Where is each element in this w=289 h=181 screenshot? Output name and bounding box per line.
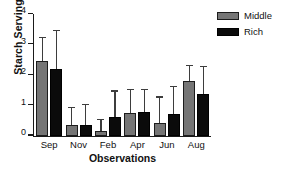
bar-middle-apr bbox=[124, 113, 136, 136]
error-bar-cap bbox=[156, 96, 163, 97]
bar-group bbox=[182, 14, 211, 136]
error-bar-cap bbox=[97, 119, 104, 120]
error-bar-cap bbox=[53, 30, 60, 31]
bar-group bbox=[34, 14, 63, 136]
bar-chart-figure: Starch Servings 01234 SepNovFebAprJunAug… bbox=[0, 0, 289, 181]
error-bar-line bbox=[189, 66, 190, 81]
bar-rich-sep bbox=[50, 69, 62, 135]
bar-rich-aug bbox=[197, 94, 209, 136]
error-bar-cap bbox=[141, 89, 148, 90]
x-axis-line bbox=[33, 136, 211, 137]
y-axis-tick-label: 1 bbox=[21, 98, 26, 107]
error-bar-line bbox=[159, 98, 160, 123]
bar-slot bbox=[95, 14, 107, 136]
x-axis-tick-label: Apr bbox=[123, 139, 152, 150]
legend-item-rich: Rich bbox=[217, 27, 272, 37]
legend-swatch-middle-icon bbox=[217, 12, 239, 20]
y-axis-tick: 1 bbox=[28, 104, 33, 105]
error-bar-line bbox=[100, 120, 101, 131]
error-bar-cap bbox=[127, 89, 134, 90]
x-axis-tick-label: Feb bbox=[93, 139, 122, 150]
x-axis-tick-label: Aug bbox=[182, 139, 211, 150]
bar-groups bbox=[34, 14, 211, 136]
error-bar-cap bbox=[170, 86, 177, 87]
x-axis-tick-label: Sep bbox=[34, 139, 63, 150]
bar-slot bbox=[197, 14, 209, 136]
x-axis-tick-labels: SepNovFebAprJunAug bbox=[34, 139, 211, 150]
error-bar-line bbox=[130, 90, 131, 113]
y-axis-tick: 0 bbox=[28, 134, 33, 135]
error-bar-line bbox=[173, 87, 174, 114]
y-axis-tick: 2 bbox=[28, 74, 33, 75]
y-axis-tick: 4 bbox=[28, 13, 33, 14]
error-bar-line bbox=[144, 90, 145, 112]
x-axis-tick-label: Jun bbox=[152, 139, 181, 150]
error-bar-line bbox=[56, 31, 57, 70]
error-bar-line bbox=[71, 108, 72, 125]
legend-label-middle: Middle bbox=[244, 11, 272, 21]
x-axis-title: Observations bbox=[34, 152, 211, 164]
bar-group bbox=[123, 14, 152, 136]
bar-rich-nov bbox=[80, 125, 92, 135]
error-bar-line bbox=[203, 67, 204, 94]
bar-slot bbox=[183, 14, 195, 136]
error-bar-cap bbox=[39, 37, 46, 38]
bar-rich-apr bbox=[138, 112, 150, 135]
bar-slot bbox=[80, 14, 92, 136]
chart-legend: Middle Rich bbox=[217, 11, 272, 43]
bar-slot bbox=[66, 14, 78, 136]
bar-middle-sep bbox=[36, 61, 48, 135]
error-bar-cap bbox=[186, 65, 193, 66]
bar-slot bbox=[168, 14, 180, 136]
error-bar-cap bbox=[68, 107, 75, 108]
bar-middle-nov bbox=[66, 125, 78, 136]
bar-middle-jun bbox=[154, 123, 166, 136]
y-axis-tick-label: 0 bbox=[21, 128, 26, 137]
bar-slot bbox=[124, 14, 136, 136]
error-bar-cap bbox=[111, 90, 118, 91]
error-bar-cap bbox=[200, 66, 207, 67]
error-bar-line bbox=[42, 38, 43, 61]
legend-label-rich: Rich bbox=[244, 27, 263, 37]
plot-area: 01234 bbox=[33, 14, 211, 137]
legend-item-middle: Middle bbox=[217, 11, 272, 21]
bar-rich-feb bbox=[109, 117, 121, 135]
error-bar-line bbox=[85, 105, 86, 125]
error-bar-line bbox=[114, 92, 115, 118]
bar-slot bbox=[50, 14, 62, 136]
bar-slot bbox=[138, 14, 150, 136]
bar-group bbox=[64, 14, 93, 136]
error-bar-cap bbox=[82, 104, 89, 105]
bar-slot bbox=[109, 14, 121, 136]
bar-group bbox=[152, 14, 181, 136]
y-axis-tick-label: 4 bbox=[21, 6, 26, 15]
bar-rich-jun bbox=[168, 114, 180, 135]
legend-swatch-rich-icon bbox=[217, 28, 239, 36]
y-axis-tick: 3 bbox=[28, 43, 33, 44]
bar-slot bbox=[154, 14, 166, 136]
x-axis-tick-label: Nov bbox=[64, 139, 93, 150]
bar-middle-aug bbox=[183, 81, 195, 136]
bar-group bbox=[93, 14, 122, 136]
y-axis-tick-label: 2 bbox=[21, 67, 26, 76]
bar-slot bbox=[36, 14, 48, 136]
bar-middle-feb bbox=[95, 131, 107, 136]
y-axis-tick-label: 3 bbox=[21, 37, 26, 46]
